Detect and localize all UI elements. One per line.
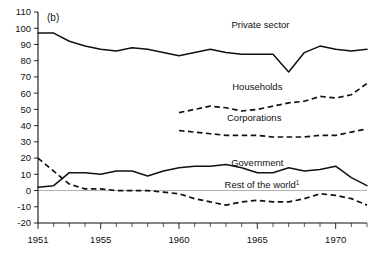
series-label-government: Government: [231, 157, 284, 168]
series-line-private-sector: [38, 33, 367, 72]
x-tick-label: 1965: [247, 234, 268, 245]
y-tick-label: 0: [26, 185, 31, 196]
y-tick-label: 10: [20, 169, 31, 180]
series-line-rest-of-the-world: [38, 158, 367, 205]
series-label-private-sector: Private sector: [231, 19, 289, 30]
series-labels: Private sectorHouseholdsCorporationsGove…: [225, 19, 300, 190]
y-tick-label: 20: [20, 152, 31, 163]
series-label-corporations: Corporations: [227, 112, 282, 123]
y-tick-label: 100: [15, 23, 31, 34]
y-tick-label: 30: [20, 136, 31, 147]
panel-label: (b): [47, 12, 59, 23]
x-axis-tick-labels: 19511955196019651970: [27, 234, 346, 245]
y-tick-label: 80: [20, 55, 31, 66]
y-tick-label: 110: [16, 6, 31, 17]
y-tick-label: -20: [17, 217, 31, 228]
y-tick-label: 60: [20, 88, 31, 99]
y-tick-label: 70: [20, 71, 31, 82]
data-series: [38, 33, 367, 205]
axis-ticks: [34, 12, 367, 229]
series-line-government: [38, 165, 367, 188]
line-chart: 1101009080706050403020100-10-20 19511955…: [0, 0, 373, 257]
x-tick-label: 1970: [325, 234, 346, 245]
series-line-corporations: [179, 129, 367, 137]
x-tick-label: 1951: [27, 234, 48, 245]
x-tick-label: 1960: [168, 234, 189, 245]
y-axis-tick-labels: 1101009080706050403020100-10-20: [15, 6, 31, 228]
figure-panel-b: 1101009080706050403020100-10-20 19511955…: [0, 0, 373, 257]
y-tick-label: -10: [17, 201, 31, 212]
series-label-rest-of-the-world: Rest of the world1: [225, 179, 300, 190]
y-tick-label: 40: [20, 120, 31, 131]
y-tick-label: 90: [20, 39, 31, 50]
y-tick-label: 50: [20, 104, 31, 115]
chart-axes: [38, 12, 367, 223]
x-tick-label: 1955: [90, 234, 111, 245]
series-label-households: Households: [232, 81, 282, 92]
